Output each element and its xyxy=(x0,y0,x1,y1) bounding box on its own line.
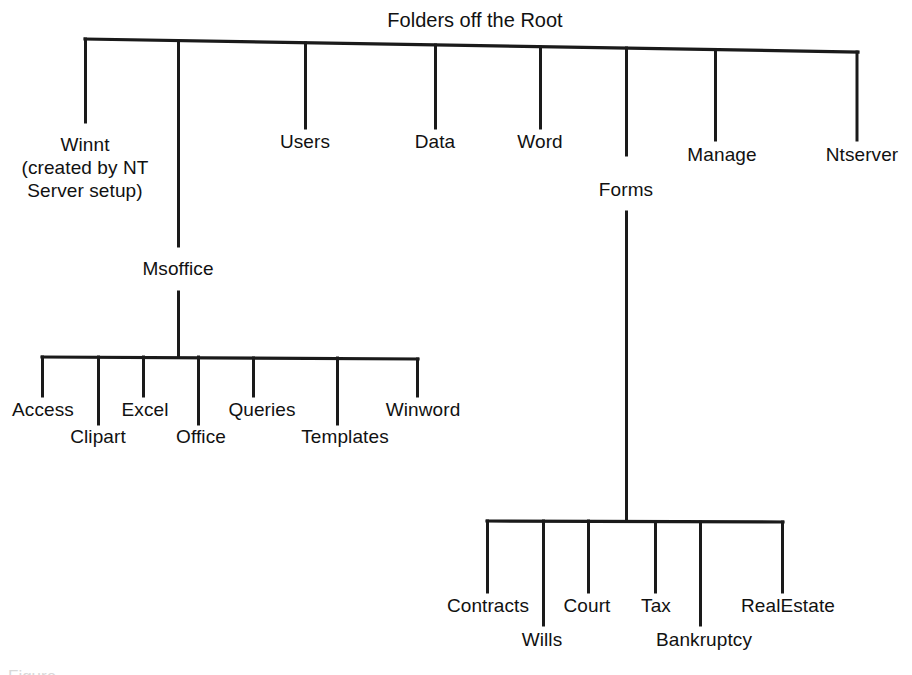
node-manage: Manage xyxy=(687,143,756,166)
node-court: Court xyxy=(564,594,611,617)
node-templates: Templates xyxy=(301,425,389,448)
folder-tree-diagram: Folders off the Root Winnt (created by N… xyxy=(0,0,912,675)
node-word: Word xyxy=(517,130,562,153)
node-excel: Excel xyxy=(122,398,169,421)
node-office: Office xyxy=(176,425,226,448)
node-queries: Queries xyxy=(228,398,295,421)
node-tax: Tax xyxy=(641,594,671,617)
node-clipart: Clipart xyxy=(70,425,126,448)
node-msoffice: Msoffice xyxy=(142,257,213,280)
tree-connector-lines xyxy=(0,0,912,675)
root-bus-line xyxy=(85,39,858,52)
node-winnt-line2: (created by NT xyxy=(21,157,148,178)
node-winnt-line1: Winnt xyxy=(60,134,109,155)
node-winword: Winword xyxy=(386,398,461,421)
figure-caption-partial: Figure xyxy=(8,667,56,675)
forms-children-bus xyxy=(487,521,783,522)
node-forms: Forms xyxy=(599,178,653,201)
node-users: Users xyxy=(280,130,330,153)
node-winnt-line3: Server setup) xyxy=(27,180,142,201)
node-data: Data xyxy=(415,130,456,153)
node-contracts: Contracts xyxy=(447,594,529,617)
node-realestate: RealEstate xyxy=(741,594,835,617)
node-bankruptcy: Bankruptcy xyxy=(656,628,752,651)
node-wills: Wills xyxy=(522,628,563,651)
node-ntserver: Ntserver xyxy=(826,143,899,166)
node-winnt: Winnt (created by NT Server setup) xyxy=(0,133,185,202)
node-access: Access xyxy=(12,398,74,421)
diagram-title: Folders off the Root xyxy=(387,9,562,32)
